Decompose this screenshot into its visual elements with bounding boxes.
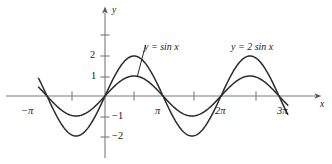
- x-tick-label-pi: π: [155, 105, 160, 116]
- x-tick-label-2pi: 2π: [215, 105, 226, 116]
- x-tick-label-3pi: 3π: [277, 105, 288, 116]
- y-tick-label-neg-2: −2: [112, 130, 123, 141]
- y-tick-label-1: 1: [91, 70, 96, 81]
- x-axis-label: x: [320, 99, 324, 109]
- curve-label-sin-x: y = sin x: [144, 41, 179, 52]
- curve-label-2-sin-x: y = 2 sin x: [231, 41, 273, 52]
- y-tick-label-2: 2: [90, 49, 95, 60]
- x-tick-label-neg-pi: −π: [21, 105, 33, 116]
- plot-canvas: [0, 0, 332, 164]
- y-tick-label-neg-1: −1: [112, 110, 123, 121]
- y-axis-label: y: [112, 5, 116, 15]
- sine-comparison-figure: x y −π π 2π 3π 2 1 −1 −2 y = sin x y = 2…: [0, 0, 332, 164]
